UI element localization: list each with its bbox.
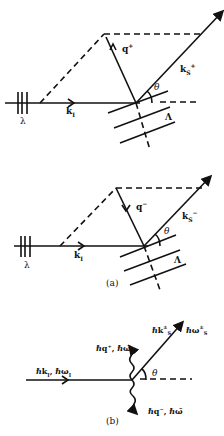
scattered-photon-energy-label: ℏω±S bbox=[186, 324, 207, 336]
phonon-plus-label: ℏq⁺, ℏω̄ bbox=[96, 343, 131, 353]
q-minus-label: q− bbox=[136, 200, 147, 212]
theta-label: θ bbox=[154, 82, 159, 92]
phonon-minus-label: ℏq⁻, ℏω̄ bbox=[148, 406, 183, 416]
acoustic-wavelength-label: Λ bbox=[165, 112, 172, 122]
acoustic-wavefront bbox=[130, 264, 186, 285]
acoustic-wavefront bbox=[108, 91, 168, 113]
theta-label: θ bbox=[164, 226, 169, 236]
caption-b: (b) bbox=[106, 416, 119, 426]
dashed-parallel-left bbox=[60, 188, 116, 246]
dashed-acoustic-normal bbox=[136, 103, 150, 150]
theta-label: θ bbox=[152, 368, 157, 378]
dashed-parallel-left bbox=[40, 34, 104, 103]
dashed-acoustic-normal bbox=[144, 246, 160, 290]
caption-a: (a) bbox=[106, 278, 118, 288]
theta-arc bbox=[155, 234, 160, 246]
ks-minus-label: kS− bbox=[182, 209, 198, 223]
panel-a-bottom bbox=[14, 177, 210, 290]
ks-plus-vector bbox=[136, 12, 222, 103]
scattered-photon-k-label: ℏk±S bbox=[152, 324, 171, 336]
panel-a-top bbox=[5, 12, 222, 150]
q-plus-label: q+ bbox=[122, 42, 133, 54]
k-incident-label: kI bbox=[74, 250, 83, 262]
lambda-label: λ bbox=[24, 260, 30, 270]
ks-plus-label: kS+ bbox=[180, 62, 196, 76]
k-incident-label: kI bbox=[66, 106, 75, 118]
incident-photon-label: ℏkI, ℏωI bbox=[36, 366, 71, 378]
acoustic-wavefront bbox=[120, 122, 175, 143]
q-plus-arrow-icon bbox=[110, 44, 116, 50]
acoustic-wavelength-label: Λ bbox=[174, 255, 181, 265]
lambda-label: λ bbox=[20, 116, 26, 126]
q-minus-vector bbox=[116, 188, 144, 246]
phonon-minus-wavy bbox=[130, 380, 136, 413]
